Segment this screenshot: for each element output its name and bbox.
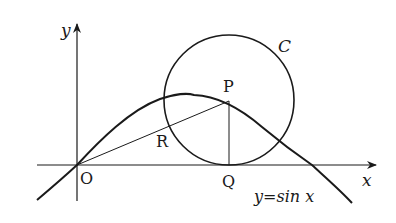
curve-equation-label: y=sin x (253, 187, 314, 206)
y-axis-label: y (60, 20, 71, 40)
point-p-label: P (223, 77, 234, 96)
circle-label: C (278, 36, 291, 56)
point-r-label: R (156, 132, 169, 151)
curve-label: y=sin x (253, 187, 314, 206)
x-axis-label: x (362, 170, 372, 190)
sine-circle-diagram: y x O C P Q R y=sin x (0, 0, 396, 223)
origin-label: O (80, 169, 93, 188)
point-q-label: Q (222, 172, 235, 191)
segment-op (77, 101, 229, 165)
